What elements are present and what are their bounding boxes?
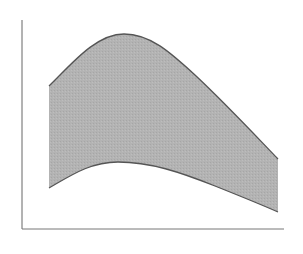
band-area-chart: [0, 0, 303, 254]
